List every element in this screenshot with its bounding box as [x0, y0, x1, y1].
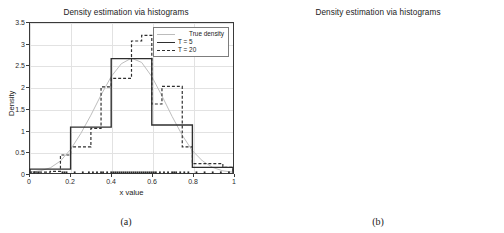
- yaxis-tick-label: 1: [3, 127, 25, 134]
- rug-marker: [33, 171, 35, 173]
- rug-marker: [155, 171, 157, 173]
- rug-marker: [143, 171, 145, 173]
- xaxis-tickmark: [29, 174, 30, 177]
- rug-marker: [116, 171, 118, 173]
- rug-marker: [120, 171, 122, 173]
- panel-a-xaxis-label: x value: [29, 188, 234, 197]
- yaxis-tick-label: 2: [3, 84, 25, 91]
- yaxis-tickmark: [26, 87, 29, 88]
- panel-a-title: Density estimation via histograms: [0, 8, 252, 17]
- legend-item-t20: T = 20: [157, 46, 225, 54]
- panel-a-legend: True density T = 5 T = 20: [153, 27, 229, 57]
- rug-marker: [212, 171, 214, 173]
- rug-marker: [187, 171, 189, 173]
- yaxis-tickmark: [26, 22, 29, 23]
- rug-marker: [64, 171, 66, 173]
- rug-marker: [183, 171, 185, 173]
- rug-marker: [106, 171, 108, 173]
- panel-b: Density estimation via histograms True d…: [252, 0, 504, 233]
- panel-a-subcaption: (a): [0, 216, 252, 227]
- rug-marker: [145, 171, 147, 173]
- rug-marker: [125, 171, 127, 173]
- xaxis-tickmark: [70, 174, 71, 177]
- rug-marker: [175, 171, 177, 173]
- series-data-rug: [33, 171, 230, 173]
- xaxis-tick-label: 0: [27, 178, 31, 185]
- legend-swatch-true-density: [157, 31, 175, 37]
- rug-marker: [122, 171, 124, 173]
- xaxis-tickmark: [111, 174, 112, 177]
- rug-marker: [139, 171, 141, 173]
- rug-marker: [66, 171, 68, 173]
- yaxis-tick-label: 3.5: [3, 19, 25, 26]
- rug-marker: [118, 171, 120, 173]
- rug-marker: [171, 171, 173, 173]
- xaxis-tick-label: 0.4: [106, 178, 116, 185]
- rug-marker: [141, 171, 143, 173]
- rug-marker: [137, 171, 139, 173]
- xaxis-tick-label: 0.8: [188, 178, 198, 185]
- rug-marker: [135, 171, 137, 173]
- rug-marker: [204, 171, 206, 173]
- rug-marker: [74, 171, 76, 173]
- rug-marker: [112, 171, 114, 173]
- panel-a-yaxis-label: Density: [7, 91, 16, 116]
- rug-marker: [147, 171, 149, 173]
- rug-marker: [167, 171, 169, 173]
- rug-marker: [133, 171, 135, 173]
- xaxis-tick-label: 1: [232, 178, 236, 185]
- xaxis-tick-label: 0.2: [65, 178, 75, 185]
- rug-marker: [92, 171, 94, 173]
- rug-marker: [100, 171, 102, 173]
- xaxis-tickmark: [234, 174, 235, 177]
- panel-b-subcaption: (b): [252, 216, 504, 227]
- legend-swatch-t5: [157, 39, 175, 45]
- rug-marker: [153, 171, 155, 173]
- panel-a-plot-area: True density T = 5 T = 20: [29, 22, 234, 174]
- rug-marker: [163, 171, 165, 173]
- yaxis-tick-label: 0: [3, 171, 25, 178]
- rug-marker: [114, 171, 116, 173]
- rug-marker: [102, 171, 104, 173]
- yaxis-tick-label: 0.5: [3, 149, 25, 156]
- panel-a: Density estimation via histograms True d…: [0, 0, 252, 233]
- xaxis-tick-label: 0.6: [147, 178, 157, 185]
- yaxis-tickmark: [26, 44, 29, 45]
- rug-marker: [173, 171, 175, 173]
- xaxis-tickmark: [152, 174, 153, 177]
- rug-marker: [149, 171, 151, 173]
- rug-marker: [82, 171, 84, 173]
- figure-histogram-density-estimation: Density estimation via histograms True d…: [0, 0, 504, 233]
- yaxis-tickmark: [26, 131, 29, 132]
- legend-swatch-t20: [157, 47, 175, 53]
- panel-b-title: Density estimation via histograms: [252, 8, 504, 17]
- rug-marker: [62, 171, 64, 173]
- rug-marker: [88, 171, 90, 173]
- rug-marker: [196, 171, 198, 173]
- rug-marker: [159, 171, 161, 173]
- rug-marker: [179, 171, 181, 173]
- yaxis-tick-label: 2.5: [3, 62, 25, 69]
- rug-marker: [96, 171, 98, 173]
- rug-marker: [127, 171, 129, 173]
- yaxis-tickmark: [26, 65, 29, 66]
- yaxis-tickmark: [26, 152, 29, 153]
- rug-marker: [129, 171, 131, 173]
- yaxis-tick-label: 3: [3, 40, 25, 47]
- xaxis-tickmark: [193, 174, 194, 177]
- rug-marker: [228, 171, 230, 173]
- yaxis-tickmark: [26, 109, 29, 110]
- rug-marker: [220, 171, 222, 173]
- rug-marker: [131, 171, 133, 173]
- yaxis-tickmark: [26, 174, 29, 175]
- rug-marker: [37, 171, 39, 173]
- legend-label-t20: T = 20: [178, 46, 225, 54]
